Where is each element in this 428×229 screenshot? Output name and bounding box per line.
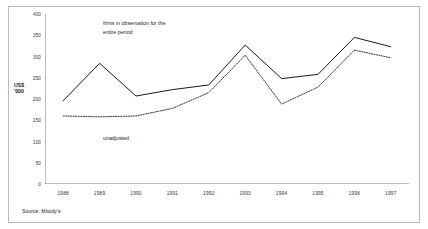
annotation-unadjusted: unadjusted bbox=[103, 134, 129, 143]
x-tick-1995: 1995 bbox=[312, 191, 323, 196]
x-tick-1988: 1988 bbox=[57, 191, 68, 196]
x-tick-1989: 1989 bbox=[94, 191, 105, 196]
source-note: Source: Moody's bbox=[22, 208, 60, 214]
x-tick-1991: 1991 bbox=[167, 191, 178, 196]
x-tick-1993: 1993 bbox=[239, 191, 250, 196]
plot-area: 050100150200250300350400 198819891990199… bbox=[45, 14, 409, 184]
y-tick-250: 250 bbox=[33, 75, 41, 80]
annotation-entire-period: firms in observation for the entire peri… bbox=[103, 19, 165, 37]
y-tick-400: 400 bbox=[33, 12, 41, 17]
x-tick-1996: 1996 bbox=[349, 191, 360, 196]
x-tick-1992: 1992 bbox=[203, 191, 214, 196]
x-tick-1997: 1997 bbox=[385, 191, 396, 196]
x-tick-1994: 1994 bbox=[276, 191, 287, 196]
chart-svg bbox=[45, 14, 409, 184]
chart-figure: US$ '000 050100150200250300350400 198819… bbox=[0, 0, 428, 229]
y-tick-150: 150 bbox=[33, 118, 41, 123]
y-tick-0: 0 bbox=[38, 182, 41, 187]
y-tick-200: 200 bbox=[33, 97, 41, 102]
x-tick-1990: 1990 bbox=[130, 191, 141, 196]
y-tick-300: 300 bbox=[33, 54, 41, 59]
series-line-unadjusted bbox=[63, 50, 391, 117]
y-axis-title: US$ '000 bbox=[14, 82, 24, 94]
y-tick-100: 100 bbox=[33, 139, 41, 144]
y-tick-350: 350 bbox=[33, 33, 41, 38]
y-tick-50: 50 bbox=[36, 160, 41, 165]
series-line-entire-period bbox=[63, 37, 391, 100]
